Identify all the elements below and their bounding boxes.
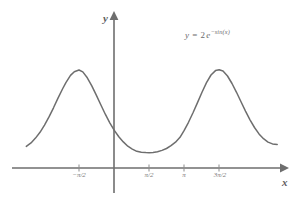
x-axis-tick-labels: −π/2 π/2 π 3π/2 <box>72 171 227 179</box>
y-axis <box>110 11 119 193</box>
equation-equals: = <box>192 30 197 40</box>
tick-label-pi-over-2: π/2 <box>145 171 154 179</box>
x-axis-arrowhead <box>280 164 289 173</box>
tick-label-neg-pi-over-2: −π/2 <box>72 171 86 179</box>
tick-label-3pi-over-2: 3π/2 <box>213 171 227 179</box>
x-axis-label: x <box>281 176 288 188</box>
equation-annotation: y=2e−sin(x) <box>185 28 230 40</box>
equation-coefficient: 2 <box>200 30 205 40</box>
equation-exponent: −sin(x) <box>210 28 230 35</box>
y-axis-arrowhead <box>110 11 119 20</box>
tick-label-pi: π <box>182 171 186 179</box>
plot-canvas: −π/2 π/2 π 3π/2 x y <box>0 0 297 200</box>
y-axis-label: y <box>101 12 108 24</box>
function-curve <box>26 70 277 153</box>
function-plot-figure: −π/2 π/2 π 3π/2 x y y=2e−sin(x) <box>0 0 297 200</box>
equation-lhs: y <box>185 30 189 40</box>
